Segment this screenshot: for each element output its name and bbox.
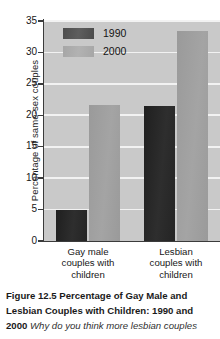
y-tick: [38, 115, 43, 117]
caption-line-3-question: Why do you think more lesbian couples: [30, 320, 197, 331]
y-tick-label: 30: [11, 47, 37, 57]
figure-caption: Figure 12.5 Percentage of Gay Male and L…: [6, 288, 216, 334]
figure-screenshot: Percentage of same-sex couples 051015202…: [0, 0, 220, 339]
bar-chart: Percentage of same-sex couples 051015202…: [0, 0, 220, 285]
y-tick: [38, 146, 43, 148]
bar-1990-group-2: [144, 106, 175, 241]
y-tick: [38, 240, 43, 242]
legend-item-2000: 2000: [63, 45, 126, 58]
y-tick: [38, 83, 43, 85]
legend-label-2000: 2000: [103, 46, 126, 57]
x-category-label-2: Lesbiancouples withchildren: [132, 246, 220, 280]
legend-swatch-1990: [63, 28, 94, 39]
gridline: [44, 20, 220, 22]
y-tick-label: 5: [11, 204, 37, 214]
y-tick: [38, 52, 43, 54]
bar-2000-group-2: [177, 31, 208, 241]
bar-2000-group-1: [89, 105, 120, 241]
y-tick-label: 25: [11, 78, 37, 88]
y-tick: [38, 209, 43, 211]
legend-item-1990: 1990: [63, 27, 126, 40]
y-tick-label: 10: [11, 173, 37, 183]
legend: 1990 2000: [63, 27, 126, 63]
y-tick: [38, 20, 43, 22]
caption-line-1: Figure 12.5 Percentage of Gay Male and: [6, 290, 187, 301]
y-tick-label: 0: [11, 236, 37, 246]
y-tick-label: 15: [11, 141, 37, 151]
x-category-label-1: Gay malecouples withchildren: [44, 246, 132, 280]
legend-swatch-2000: [63, 46, 94, 57]
caption-line-3-number: 2000: [6, 320, 27, 331]
y-tick-label: 35: [11, 16, 37, 26]
caption-line-2: Lesbian Couples with Children: 1990 and: [6, 305, 193, 316]
y-tick-label: 20: [11, 110, 37, 120]
bar-1990-group-1: [56, 210, 87, 241]
legend-label-1990: 1990: [103, 28, 126, 39]
y-tick: [38, 177, 43, 179]
